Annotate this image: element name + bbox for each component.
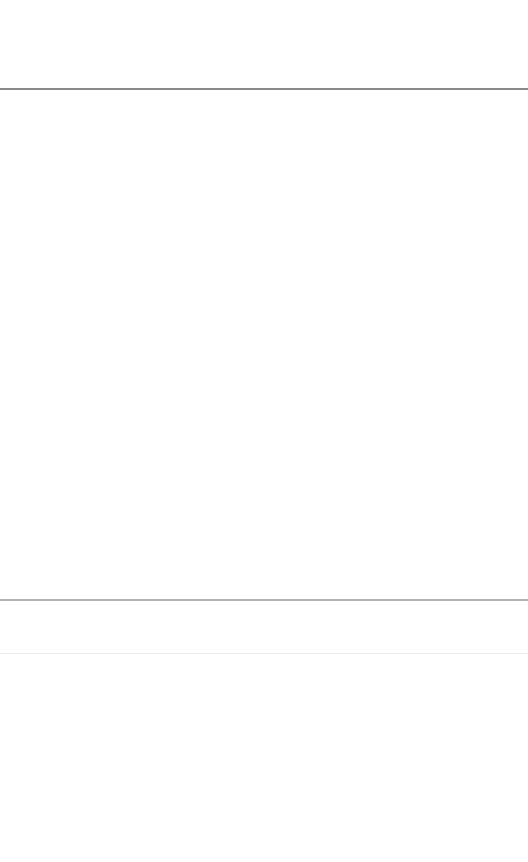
main-content bbox=[0, 90, 528, 599]
bottom-panel bbox=[0, 654, 528, 862]
header bbox=[0, 0, 528, 88]
toolbar-strip bbox=[0, 601, 528, 653]
app-window bbox=[0, 0, 528, 862]
